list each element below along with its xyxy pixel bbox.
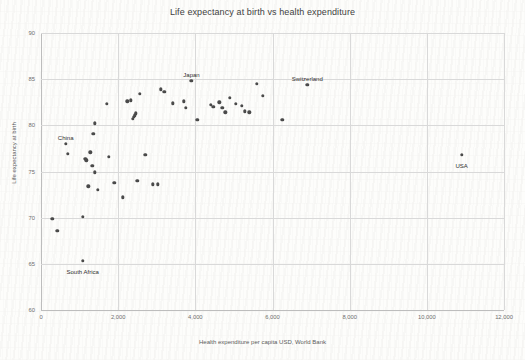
scatter-point — [190, 79, 193, 82]
scatter-point — [107, 155, 110, 158]
plot-area: ChinaJapanSwitzerlandUSASouth Africa — [41, 33, 504, 310]
scatter-point — [143, 153, 146, 156]
scatter-point — [218, 101, 221, 104]
point-annotation-label: Japan — [183, 72, 199, 78]
x-axis-tick-label: 2,000 — [111, 314, 126, 320]
scatter-point — [64, 142, 67, 145]
scatter-point — [105, 102, 108, 105]
scatter-point — [66, 152, 69, 155]
scatter-point — [243, 110, 246, 113]
scatter-point — [156, 183, 159, 186]
scatter-point — [228, 96, 231, 99]
scatter-point — [221, 106, 224, 109]
y-axis-title: Life expectancy at birth — [11, 93, 17, 213]
scatter-point — [151, 183, 154, 186]
scatter-point — [56, 229, 59, 232]
scatter-point — [163, 90, 166, 93]
scatter-point — [93, 171, 96, 174]
scatter-point — [121, 196, 124, 199]
scatter-point — [91, 164, 94, 167]
scatter-point — [255, 82, 258, 85]
scatter-point — [81, 259, 84, 262]
gridline-horizontal — [41, 172, 504, 173]
x-axis-tick-label: 12,000 — [495, 314, 513, 320]
point-annotation-label: USA — [455, 163, 467, 169]
scatter-point — [234, 102, 237, 105]
scatter-point — [184, 106, 187, 109]
scatter-point — [261, 94, 264, 97]
y-axis-tick-label: 65 — [2, 261, 35, 267]
y-axis-tick-label: 90 — [2, 30, 35, 36]
gridline-vertical — [504, 33, 505, 310]
scatter-point — [92, 132, 95, 135]
y-axis-tick-label: 75 — [2, 169, 35, 175]
scatter-point — [196, 118, 199, 121]
gridline-horizontal — [41, 33, 504, 34]
x-axis-title: Health expenditure per capita USD, World… — [0, 339, 525, 345]
scatter-point — [306, 83, 309, 86]
scatter-point — [280, 118, 283, 121]
y-axis-tick-label: 60 — [2, 307, 35, 313]
chart-title: Life expectancy at birth vs health expen… — [0, 7, 525, 17]
scatter-point — [212, 105, 215, 108]
point-annotation-label: China — [58, 135, 74, 141]
point-annotation-label: South Africa — [66, 269, 98, 275]
x-axis-tick-label: 6,000 — [265, 314, 280, 320]
x-axis-line — [41, 310, 504, 311]
x-axis-tick-label: 0 — [39, 314, 42, 320]
y-axis-tick-label: 70 — [2, 215, 35, 221]
y-axis-tick-label: 85 — [2, 76, 35, 82]
scatter-point — [113, 181, 116, 184]
scatter-point — [50, 217, 53, 220]
scatter-point — [240, 104, 243, 107]
scatter-point — [89, 150, 92, 153]
gridline-horizontal — [41, 264, 504, 265]
scatter-point — [129, 99, 132, 102]
x-axis-tick-label: 10,000 — [418, 314, 436, 320]
scatter-point — [182, 100, 185, 103]
scatter-point — [159, 88, 162, 91]
scatter-point — [84, 159, 87, 162]
point-annotation-label: Switzerland — [292, 76, 323, 82]
scatter-point — [134, 112, 137, 115]
scatter-point — [96, 188, 99, 191]
x-axis-tick-label: 4,000 — [188, 314, 203, 320]
gridline-horizontal — [41, 218, 504, 219]
y-axis-tick-label: 80 — [2, 122, 35, 128]
scatter-chart: Life expectancy at birth vs health expen… — [0, 0, 525, 360]
scatter-point — [224, 111, 227, 114]
gridline-horizontal — [41, 79, 504, 80]
scatter-point — [248, 111, 251, 114]
scatter-point — [138, 92, 141, 95]
x-axis-tick-label: 8,000 — [342, 314, 357, 320]
scatter-point — [460, 153, 463, 156]
scatter-point — [87, 185, 90, 188]
scatter-point — [136, 179, 139, 182]
scatter-point — [171, 101, 174, 104]
gridline-horizontal — [41, 125, 504, 126]
